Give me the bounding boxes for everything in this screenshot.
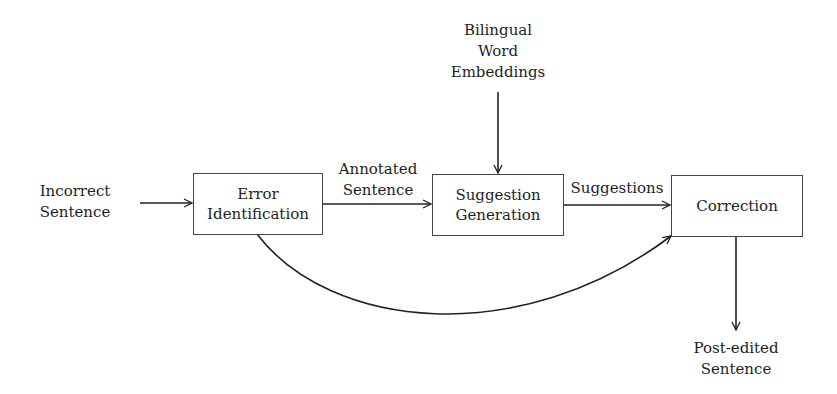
output-post-edited-sentence: Post-edited Sentence — [686, 338, 786, 380]
input-incorrect-sentence: Incorrect Sentence — [30, 181, 120, 223]
node-suggestion-generation: Suggestion Generation — [432, 174, 564, 236]
edge-label-annotated-sentence: Annotated Sentence — [326, 159, 430, 201]
curved-arrow-error-identification-to-correction — [257, 234, 671, 314]
input-bilingual-word-embeddings: Bilingual Word Embeddings — [445, 20, 551, 83]
node-correction: Correction — [671, 175, 803, 237]
edge-label-suggestions: Suggestions — [564, 178, 670, 199]
node-error-identification: Error Identification — [193, 173, 323, 235]
